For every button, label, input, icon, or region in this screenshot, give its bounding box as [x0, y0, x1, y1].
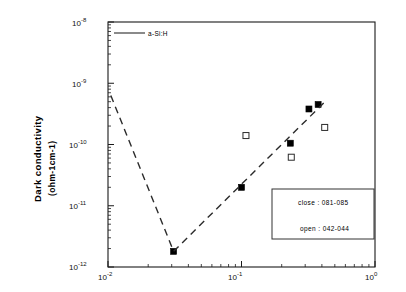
axis-ticks: [108, 22, 375, 267]
trend-dashed-line: [111, 96, 326, 252]
data-point-closed: [239, 184, 245, 190]
data-point-open: [243, 133, 249, 139]
chart-figure: Dark conductivity (ohm-1cm-1) 10-8 10-9 …: [0, 0, 406, 292]
legend-box-border: [272, 189, 374, 239]
plot-area: [0, 0, 406, 292]
data-point-closed: [287, 140, 293, 146]
data-point-open: [322, 124, 328, 130]
axis-frame: [108, 22, 375, 267]
data-point-closed: [306, 106, 312, 112]
data-series-layer: [111, 96, 328, 255]
data-point-open: [288, 154, 294, 160]
